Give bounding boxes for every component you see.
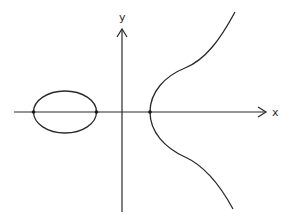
x-intercept-point [148, 110, 152, 114]
x-intercept-point [32, 110, 36, 114]
x-axis-label: x [272, 106, 279, 119]
elliptic-curve-diagram: x y [0, 0, 293, 222]
x-intercept-point [95, 110, 99, 114]
curve-branch [150, 12, 235, 209]
y-axis-label: y [119, 11, 126, 24]
